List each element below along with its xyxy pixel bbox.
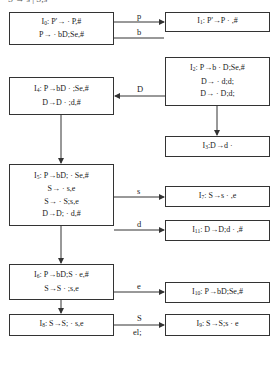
state-i8: I8: S→S; · s,e [9, 314, 114, 336]
state-i5: I5: P→bD; · Se,# S→ · s,e S→ · S;s,e D→D… [9, 164, 114, 226]
edge-label-D: D [137, 84, 143, 94]
state-i6: I6: P→bD;S · e,# S→S · ;s,e [9, 264, 114, 300]
state-i9: I9: S→S;s · e [165, 314, 270, 336]
edge-label-p: p [137, 11, 141, 21]
state-i4: I4: P→bD · ;Se,# D→D · ;d,# [9, 77, 114, 115]
edge-label-b: b [137, 27, 141, 37]
edge-label-e: e [137, 281, 141, 291]
state-i11: I11: D→D;d · ,# [165, 220, 270, 241]
state-i0: I0: P'→ · P,# P→ · bD;Se,# [9, 12, 114, 45]
state-i7: I7: S→s · ,e [165, 186, 270, 207]
edge-label-d: d [137, 219, 141, 229]
edge-label-s: s [137, 186, 140, 196]
state-i2: I2: P→b · D;Se,# D→ · d;d; D→ · D;d; [165, 57, 270, 106]
edge-sublabel-el: el; [133, 327, 142, 337]
state-i3: I3:D→d · [165, 136, 270, 157]
edge-label-S: S [137, 313, 142, 323]
state-i1: I1: P'→P · ,# [165, 12, 270, 32]
state-i10: I10: P→bD;Se,# [165, 282, 270, 303]
